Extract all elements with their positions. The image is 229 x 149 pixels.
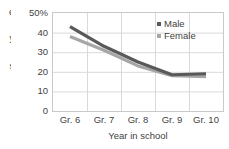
x-axis-tick-label: Gr. 9 — [162, 114, 183, 125]
x-axis-title: Year in school — [52, 130, 224, 141]
data-series-layer — [53, 13, 223, 111]
x-axis-tick-labels: Gr. 6Gr. 7Gr. 8Gr. 9Gr. 10 — [52, 114, 224, 128]
y-axis-tick-label: 30 — [37, 47, 48, 57]
x-axis-tick-label: Gr. 8 — [128, 114, 149, 125]
y-axis-tick-label: 50% — [29, 8, 48, 18]
y-axis-tick-labels: 01020304050% — [10, 0, 50, 120]
y-axis-tick-label: 20 — [37, 67, 48, 77]
line-chart: e r y . s 01020304050% MaleFemale Gr. 6G… — [0, 0, 229, 149]
y-axis-tick-label: 40 — [37, 28, 48, 38]
plot-area: MaleFemale — [52, 12, 224, 112]
x-axis-tick-label: Gr. 7 — [94, 114, 115, 125]
x-axis-tick-label: Gr. 10 — [193, 114, 219, 125]
y-axis-tick-label: 10 — [37, 86, 48, 96]
x-axis-tick-label: Gr. 6 — [60, 114, 81, 125]
y-axis-tick-label: 0 — [43, 106, 48, 116]
